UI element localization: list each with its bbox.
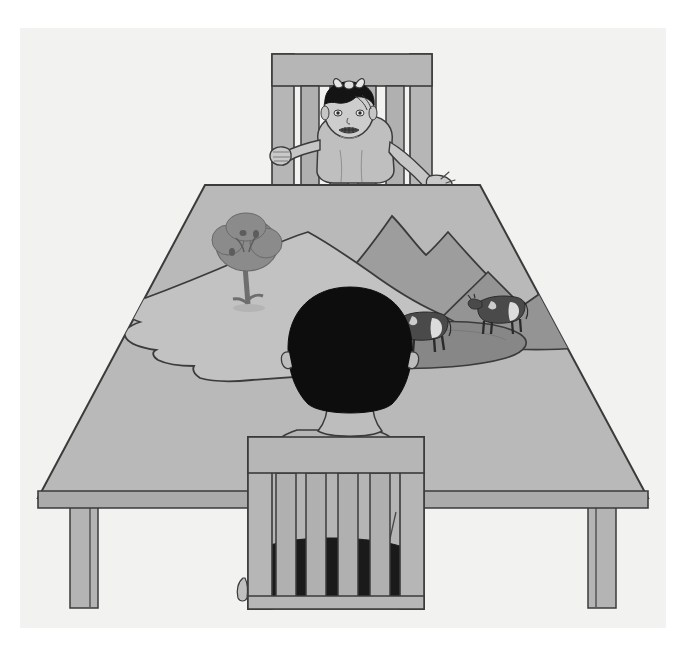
illustration-scene: [0, 0, 686, 646]
boy-hair: [288, 287, 412, 413]
illustration-canvas: [0, 0, 686, 646]
